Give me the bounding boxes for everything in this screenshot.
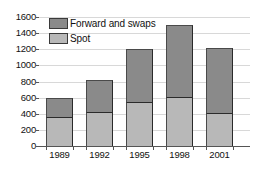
bar-segment-forward-and-swaps-2001[interactable]	[206, 48, 233, 114]
chart-legend: Forward and swaps Spot	[49, 16, 171, 46]
bar-group-1989[interactable]	[46, 98, 73, 146]
y-tick-label-1000: 1000	[2, 60, 36, 69]
bar-chart: 1600 1400 1200 1000 800 600 400 200 0 19…	[0, 0, 273, 171]
y-tick-mark-1000	[36, 65, 39, 66]
bar-segment-forward-and-swaps-1992[interactable]	[86, 80, 113, 113]
bar-segment-spot-1989[interactable]	[46, 118, 73, 146]
legend-swatch-spot	[49, 33, 68, 44]
y-tick-mark-0	[36, 146, 39, 147]
y-tick-label-800: 800	[2, 77, 36, 86]
legend-label-forward-and-swaps: Forward and swaps	[70, 18, 156, 29]
bar-segment-spot-1998[interactable]	[166, 98, 193, 146]
legend-item-forward-and-swaps[interactable]: Forward and swaps	[49, 16, 171, 30]
bar-group-1995[interactable]	[126, 49, 153, 146]
legend-label-spot: Spot	[70, 33, 90, 44]
y-tick-mark-600	[36, 98, 39, 99]
y-tick-label-200: 200	[2, 125, 36, 134]
bar-segment-forward-and-swaps-1995[interactable]	[126, 49, 153, 103]
bar-segment-spot-1995[interactable]	[126, 103, 153, 146]
legend-swatch-forward-and-swaps	[49, 18, 68, 29]
y-tick-mark-1600	[36, 17, 39, 18]
y-axis: 1600 1400 1200 1000 800 600 400 200 0	[0, 0, 36, 171]
y-tick-mark-800	[36, 82, 39, 83]
legend-item-spot[interactable]: Spot	[49, 31, 171, 45]
x-tick-label-2001: 2001	[196, 149, 244, 160]
y-tick-mark-200	[36, 130, 39, 131]
bar-group-2001[interactable]	[206, 48, 233, 146]
y-tick-label-1200: 1200	[2, 44, 36, 53]
axis-baseline	[38, 146, 250, 147]
y-tick-label-600: 600	[2, 93, 36, 102]
y-tick-label-1400: 1400	[2, 28, 36, 37]
bar-group-1992[interactable]	[86, 80, 113, 146]
bar-segment-spot-2001[interactable]	[206, 114, 233, 146]
y-tick-mark-1200	[36, 49, 39, 50]
y-tick-mark-1400	[36, 33, 39, 34]
y-tick-mark-400	[36, 114, 39, 115]
y-tick-label-0: 0	[2, 141, 36, 150]
y-tick-label-1600: 1600	[2, 12, 36, 21]
bar-segment-forward-and-swaps-1989[interactable]	[46, 98, 73, 118]
y-tick-label-400: 400	[2, 109, 36, 118]
bar-segment-spot-1992[interactable]	[86, 113, 113, 146]
